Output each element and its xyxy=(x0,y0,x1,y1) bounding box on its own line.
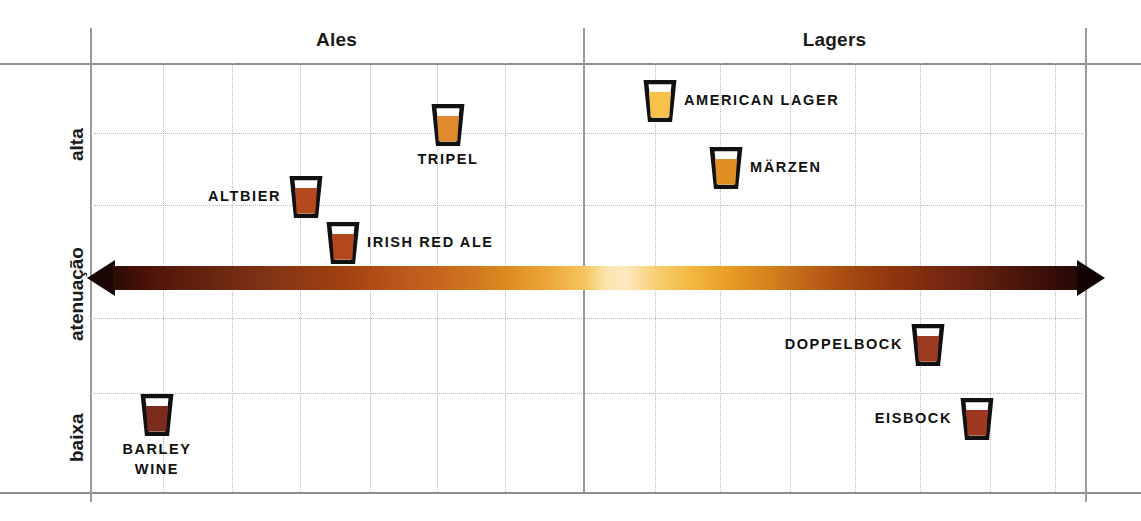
beer-glass-icon xyxy=(960,398,994,444)
beer-glass-icon xyxy=(140,394,174,440)
beer-glass-icon xyxy=(911,324,945,370)
horizontal-gridline xyxy=(90,318,1086,319)
beer-label: BARLEY WINE xyxy=(122,440,191,479)
beer-attenuation-chart: Ales Lagers alta atenuação baixa TRIPELA… xyxy=(0,0,1141,521)
arrow-head-left-icon xyxy=(87,260,115,296)
beer-label: ALTBIER xyxy=(208,187,281,207)
beer-label: AMERICAN LAGER xyxy=(684,91,839,111)
beer-data-point: ALTBIER xyxy=(289,176,323,218)
beer-label: TRIPEL xyxy=(417,150,478,170)
top-axis-rule xyxy=(0,63,1141,65)
section-title-ales: Ales xyxy=(90,29,583,51)
bottom-axis-rule xyxy=(0,492,1141,494)
beer-glass-icon xyxy=(289,176,323,222)
beer-data-point: BARLEY WINE xyxy=(140,394,174,436)
beer-data-point: TRIPEL xyxy=(431,104,465,146)
beer-label: IRISH RED ALE xyxy=(367,233,494,253)
beer-label: DOPPELBOCK xyxy=(785,335,903,355)
y-axis-label-high: alta xyxy=(66,128,88,161)
beer-data-point: AMERICAN LAGER xyxy=(643,80,677,122)
beer-glass-icon xyxy=(643,80,677,126)
beer-glass-icon xyxy=(431,104,465,150)
beer-data-point: DOPPELBOCK xyxy=(911,324,945,366)
beer-data-point: EISBOCK xyxy=(960,398,994,440)
beer-glass-icon xyxy=(709,147,743,193)
horizontal-gridline xyxy=(90,133,1086,134)
section-title-lagers: Lagers xyxy=(583,29,1086,51)
horizontal-gridline xyxy=(90,393,1086,394)
gradient-band xyxy=(113,266,1079,290)
y-axis-label-low: baixa xyxy=(66,413,88,462)
beer-color-gradient-arrow xyxy=(87,260,1105,296)
beer-glass-icon xyxy=(326,222,360,268)
y-axis-title: atenuação xyxy=(66,247,88,341)
beer-data-point: IRISH RED ALE xyxy=(326,222,360,264)
beer-label: MÄRZEN xyxy=(750,158,822,178)
beer-data-point: MÄRZEN xyxy=(709,147,743,189)
beer-label: EISBOCK xyxy=(875,409,952,429)
arrow-head-right-icon xyxy=(1077,260,1105,296)
